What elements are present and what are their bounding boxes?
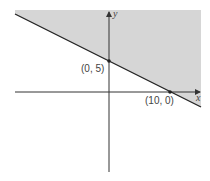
graph-svg: y x (0, 5) (10, 0) xyxy=(0,0,210,181)
point-0-5 xyxy=(107,59,111,63)
point-label-0-5: (0, 5) xyxy=(81,63,104,74)
point-10-0 xyxy=(168,90,172,94)
inequality-graph: y x (0, 5) (10, 0) xyxy=(0,0,210,181)
point-label-10-0: (10, 0) xyxy=(145,95,174,106)
x-axis-label: x xyxy=(195,92,201,103)
y-axis-label: y xyxy=(112,8,118,19)
